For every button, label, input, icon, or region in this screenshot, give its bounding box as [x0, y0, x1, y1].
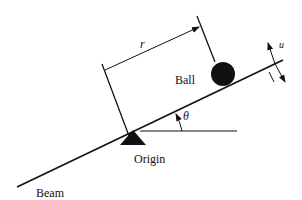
beam-line — [17, 60, 283, 187]
pivot-triangle — [120, 130, 146, 145]
u-double-arrow — [269, 72, 274, 82]
ball — [211, 62, 235, 86]
u-arrow-up — [268, 43, 275, 64]
origin-label: Origin — [134, 153, 165, 165]
u-arrow-down — [275, 64, 285, 82]
r-left-tick — [102, 64, 129, 136]
input-label: u — [279, 40, 284, 50]
r-dimension-arrow — [105, 27, 199, 70]
ball-label: Ball — [175, 74, 195, 86]
angle-label: θ — [183, 110, 189, 122]
r-right-tick — [197, 16, 215, 62]
ball-beam-diagram — [0, 0, 302, 200]
beam-label: Beam — [36, 187, 64, 199]
distance-label: r — [140, 38, 145, 50]
angle-arc-arrow — [176, 114, 182, 131]
